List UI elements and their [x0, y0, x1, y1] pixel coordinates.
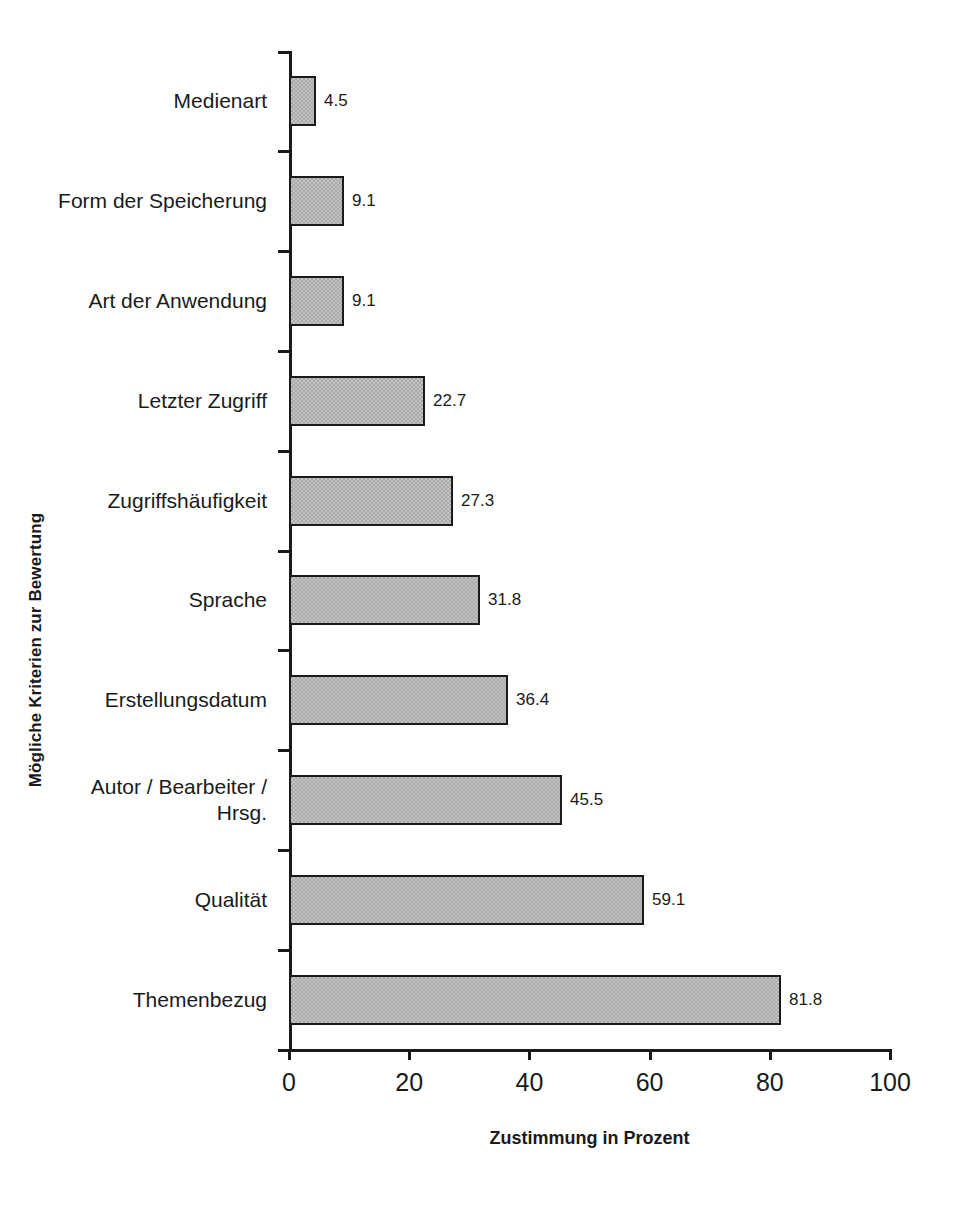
category-label-text: Qualität: [195, 887, 278, 913]
bar-value-label: 59.1: [652, 890, 685, 910]
bar: [289, 376, 425, 426]
category-label: Sprache: [0, 575, 278, 625]
x-axis-tick-label: 100: [845, 1068, 935, 1097]
x-axis-tick: [408, 1049, 411, 1060]
bar: [289, 975, 781, 1025]
x-axis-tick: [288, 1049, 291, 1060]
bar: [289, 476, 453, 526]
x-axis-tick: [889, 1049, 892, 1060]
category-label: Qualität: [0, 875, 278, 925]
bar: [289, 675, 508, 725]
bar-value-label: 9.1: [352, 291, 376, 311]
y-axis-top-cap: [278, 51, 290, 54]
category-label: Art der Anwendung: [0, 276, 278, 326]
x-axis-tick-label: 20: [364, 1068, 454, 1097]
category-label: Themenbezug: [0, 975, 278, 1025]
bar: [289, 775, 562, 825]
y-axis-tick: [278, 450, 290, 453]
x-axis-tick: [528, 1049, 531, 1060]
bar: [289, 76, 316, 126]
y-axis-tick: [278, 250, 290, 253]
y-axis-tick: [278, 350, 290, 353]
y-axis-title: Mögliche Kriterien zur Bewertung: [26, 510, 46, 790]
x-axis-line: [289, 1049, 890, 1052]
y-axis-tick: [278, 550, 290, 553]
category-label: Form der Speicherung: [0, 176, 278, 226]
category-label-text: Letzter Zugriff: [138, 388, 278, 414]
category-label: Medienart: [0, 76, 278, 126]
y-axis-tick: [278, 849, 290, 852]
category-label-text: Erstellungsdatum: [105, 687, 278, 713]
y-axis-tick: [278, 749, 290, 752]
y-axis-tick: [278, 150, 290, 153]
x-axis-tick-label: 40: [484, 1068, 574, 1097]
bar-value-label: 31.8: [488, 590, 521, 610]
category-label-text: Zugriffshäufigkeit: [107, 488, 278, 514]
bar-value-label: 45.5: [570, 790, 603, 810]
bar: [289, 875, 644, 925]
x-axis-tick: [769, 1049, 772, 1060]
category-label-text: Themenbezug: [133, 987, 278, 1013]
category-label: Erstellungsdatum: [0, 675, 278, 725]
bar-value-label: 27.3: [461, 491, 494, 511]
bar-value-label: 4.5: [324, 91, 348, 111]
x-axis-tick-label: 80: [725, 1068, 815, 1097]
bar-value-label: 36.4: [516, 690, 549, 710]
y-axis-tick: [278, 649, 290, 652]
x-axis-tick: [649, 1049, 652, 1060]
bar-value-label: 22.7: [433, 391, 466, 411]
category-label: Letzter Zugriff: [0, 376, 278, 426]
bar: [289, 176, 344, 226]
category-label-text: Sprache: [189, 587, 278, 613]
bar-value-label: 81.8: [789, 990, 822, 1010]
y-axis-tick: [278, 949, 290, 952]
bar-value-label: 9.1: [352, 191, 376, 211]
x-axis-tick-label: 60: [605, 1068, 695, 1097]
category-label-text: Form der Speicherung: [58, 188, 278, 214]
bar: [289, 276, 344, 326]
category-label: Autor / Bearbeiter / Hrsg.: [0, 775, 278, 825]
category-label-text: Medienart: [174, 88, 278, 114]
bar: [289, 575, 480, 625]
bar-chart: Mögliche Kriterien zur Bewertung 0204060…: [0, 0, 955, 1212]
category-label-text: Autor / Bearbeiter / Hrsg.: [91, 774, 278, 827]
x-axis-title: Zustimmung in Prozent: [289, 1128, 890, 1149]
category-label-text: Art der Anwendung: [88, 288, 278, 314]
category-label: Zugriffshäufigkeit: [0, 476, 278, 526]
x-axis-tick-label: 0: [244, 1068, 334, 1097]
